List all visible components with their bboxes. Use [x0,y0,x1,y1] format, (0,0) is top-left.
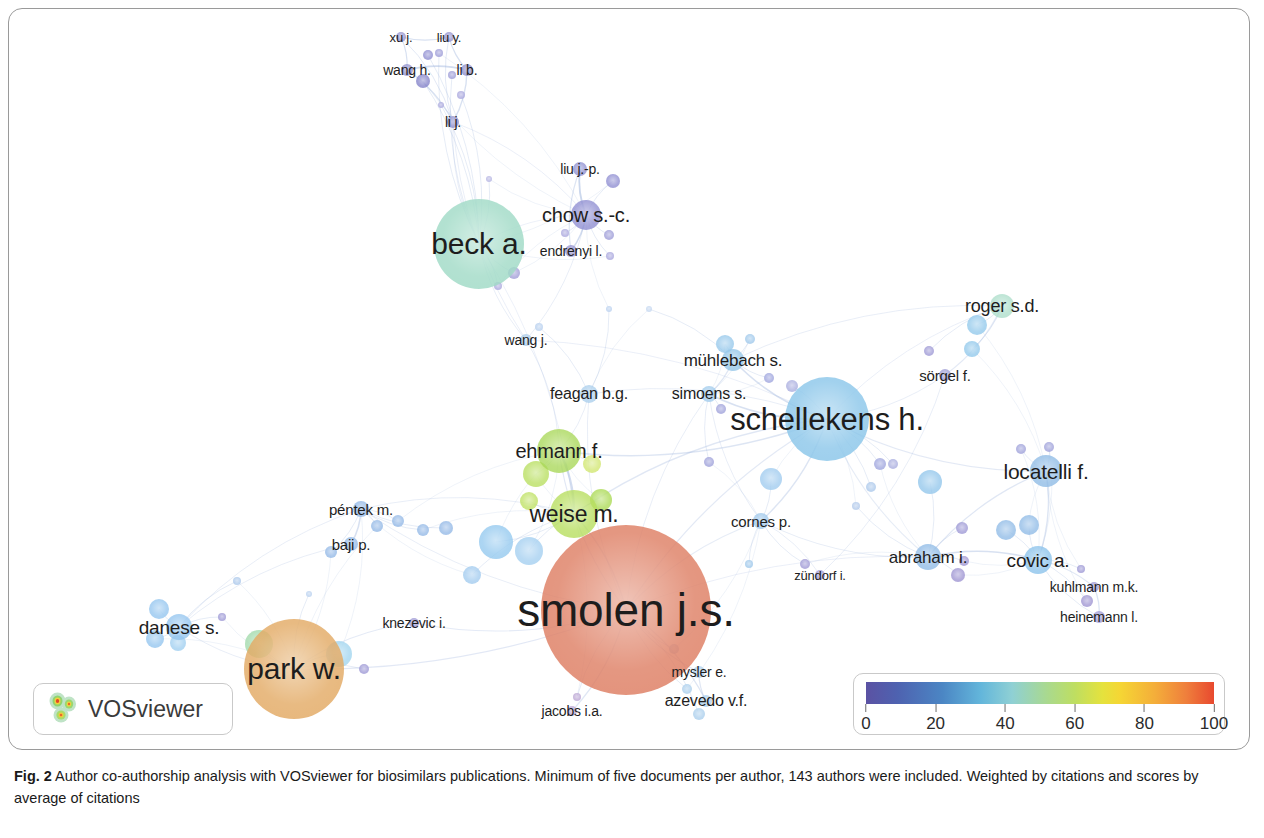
color-scale-legend: 020406080100 [853,673,1225,735]
node-label-z-ndorf-i[interactable]: zündorf i. [794,569,845,582]
node-label-kuhlmann-m-k[interactable]: kuhlmann m.k. [1050,580,1138,594]
network-link [928,471,1046,557]
network-node-unlabeled[interactable] [486,176,492,182]
network-node-unlabeled[interactable] [1077,565,1085,573]
network-node-unlabeled[interactable] [956,522,968,534]
network-node-unlabeled[interactable] [479,525,513,559]
network-node-unlabeled[interactable] [423,50,433,60]
network-node-unlabeled[interactable] [535,323,543,331]
network-node-unlabeled[interactable] [866,482,876,492]
node-label-p-ntek-m[interactable]: péntek m. [329,502,393,517]
network-node-unlabeled[interactable] [233,577,241,585]
node-label-m-hlebach-s[interactable]: mühlebach s. [684,352,783,369]
node-label-mysler-e[interactable]: mysler e. [672,665,727,679]
node-label-li-b[interactable]: li b. [457,63,478,77]
node-highlight [760,468,782,490]
network-node-unlabeled[interactable] [359,664,369,674]
network-node-unlabeled[interactable] [967,315,987,335]
network-node-unlabeled[interactable] [417,524,429,536]
network-node-unlabeled[interactable] [457,91,465,99]
network-node-unlabeled[interactable] [996,520,1016,540]
node-label-azevedo-v-f[interactable]: azevedo v.f. [665,693,748,709]
network-node-unlabeled[interactable] [371,520,383,532]
node-label-knezevic-i[interactable]: knezevic i. [382,616,445,630]
node-label-simoens-s[interactable]: simoens s. [672,386,746,402]
color-legend-ticks: 020406080100 [866,704,1214,734]
network-node-unlabeled[interactable] [1016,444,1026,454]
network-node-unlabeled[interactable] [704,457,714,467]
node-label-feagan-b-g[interactable]: feagan b.g. [550,386,628,402]
node-label-heinemann-l[interactable]: heinemann l. [1060,610,1138,624]
network-node-unlabeled[interactable] [646,306,652,312]
node-highlight [786,380,798,392]
network-node-unlabeled[interactable] [852,502,860,510]
node-label-s-rgel-f[interactable]: sörgel f. [919,368,971,383]
network-node-unlabeled[interactable] [606,174,620,188]
vosviewer-brand-box[interactable]: VOSviewer [33,683,233,735]
node-label-covic-a[interactable]: covic a. [1007,551,1070,570]
node-label-roger-s-d[interactable]: roger s.d. [965,297,1039,315]
node-highlight [448,71,456,79]
node-label-weise-m[interactable]: weise m. [529,503,618,526]
node-label-ehmann-f[interactable]: ehmann f. [515,441,602,461]
node-label-wang-h[interactable]: wang h. [383,63,431,77]
node-label-chow-s-c[interactable]: chow s.-c. [542,205,630,225]
network-node-unlabeled[interactable] [438,102,444,108]
network-node-unlabeled[interactable] [561,229,569,237]
network-node-unlabeled[interactable] [604,230,614,240]
network-node-unlabeled[interactable] [606,306,612,312]
network-canvas[interactable] [9,9,1249,749]
network-node-unlabeled[interactable] [448,71,456,79]
network-node-unlabeled[interactable] [435,49,443,57]
node-label-li-j[interactable]: li j. [445,115,461,129]
node-highlight [745,334,755,344]
node-highlight [1016,444,1026,454]
node-label-beck-a[interactable]: beck a. [431,229,526,259]
node-highlight [535,323,543,331]
network-node-unlabeled[interactable] [964,341,980,357]
node-label-baji-p[interactable]: baji p. [332,537,371,552]
network-node-unlabeled[interactable] [306,591,312,597]
network-node-unlabeled[interactable] [924,346,934,356]
network-node-unlabeled[interactable] [693,708,705,720]
network-node-unlabeled[interactable] [918,470,942,494]
node-label-xu-j[interactable]: xu j. [390,31,413,44]
network-node-unlabeled[interactable] [1019,515,1039,535]
network-node-unlabeled[interactable] [951,568,965,582]
legend-tick-mark [1005,704,1006,712]
network-node-unlabeled[interactable] [786,380,798,392]
node-label-liu-y[interactable]: liu y. [437,31,462,44]
node-label-liu-j-p[interactable]: liu j.-p. [560,162,599,176]
node-label-cornes-p[interactable]: cornes p. [731,514,791,529]
network-node-unlabeled[interactable] [764,373,774,383]
node-label-locatelli-f[interactable]: locatelli f. [1003,461,1088,482]
network-node-unlabeled[interactable] [1081,595,1093,607]
vosviewer-network-panel[interactable]: xu j.liu y.wang h.li b.li j.liu j.-p.cho… [8,8,1250,750]
network-node-unlabeled[interactable] [745,560,753,568]
node-highlight [1044,442,1054,452]
node-label-danese-s[interactable]: danese s. [139,618,220,637]
network-node-unlabeled[interactable] [745,334,755,344]
node-label-abraham-i[interactable]: abraham i. [889,549,967,566]
network-node-unlabeled[interactable] [1044,442,1054,452]
network-node-unlabeled[interactable] [439,521,453,535]
network-node-unlabeled[interactable] [573,693,581,701]
node-label-park-w[interactable]: park w. [247,654,341,684]
node-highlight [435,49,443,57]
network-node-unlabeled[interactable] [888,459,898,469]
network-node-unlabeled[interactable] [463,566,481,584]
node-highlight [704,457,714,467]
network-node-unlabeled[interactable] [760,468,782,490]
node-highlight [964,341,980,357]
network-node-unlabeled[interactable] [606,252,614,260]
network-node-unlabeled[interactable] [515,537,543,565]
network-node-unlabeled[interactable] [392,515,404,527]
node-label-endrenyi-l[interactable]: endrenyi l. [540,244,602,258]
node-label-schellekens-h[interactable]: schellekens h. [730,404,924,435]
node-label-smolen-j-s[interactable]: smolen j.s. [517,587,735,633]
node-label-wang-j[interactable]: wang j. [505,333,548,347]
node-label-jacobs-i-a[interactable]: jacobs i.a. [542,704,603,718]
legend-tick-mark [1214,704,1215,712]
network-node-unlabeled[interactable] [716,404,726,414]
network-node-unlabeled[interactable] [874,458,886,470]
